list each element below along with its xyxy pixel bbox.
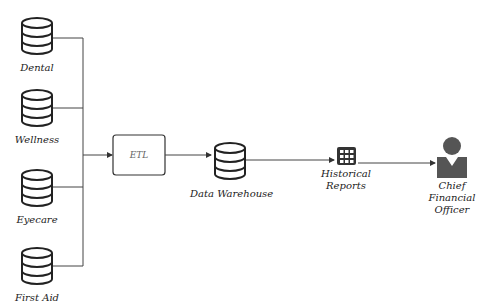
database-icon-eyecare — [22, 170, 52, 206]
cfo-label-line1: Chief — [422, 180, 482, 191]
grid-icon — [337, 147, 356, 165]
source-label-first-aid: First Aid — [8, 292, 66, 303]
database-icon-warehouse — [215, 143, 245, 179]
source-label-wellness: Wellness — [10, 134, 64, 145]
reports-label-line1: Historical — [316, 168, 376, 179]
warehouse-label: Data Warehouse — [190, 188, 270, 199]
person-icon — [437, 137, 467, 178]
cfo-label-line2: Financial — [422, 192, 482, 203]
etl-label: ETL — [113, 150, 165, 161]
source-label-dental: Dental — [12, 62, 62, 73]
database-icon-dental — [22, 18, 52, 54]
source-label-eyecare: Eyecare — [10, 214, 64, 225]
database-icon-wellness — [22, 90, 52, 126]
reports-label-line2: Reports — [316, 180, 376, 191]
data-flow-diagram — [0, 0, 482, 305]
database-icon-first-aid — [22, 248, 52, 284]
cfo-label-line3: Officer — [422, 204, 482, 215]
